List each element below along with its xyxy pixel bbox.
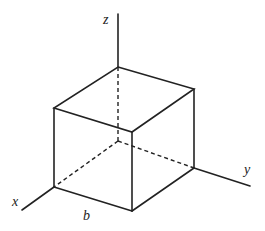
cube-edge-bottom-left <box>54 187 132 211</box>
cube-diagram: z y x b <box>0 0 265 231</box>
cube-edge-bottom-right <box>132 168 194 211</box>
x-axis-label: x <box>11 194 19 209</box>
cube-top-face <box>54 67 194 132</box>
hidden-edge-y <box>118 141 194 168</box>
hidden-edge-x <box>54 141 118 187</box>
z-axis-label: z <box>102 12 109 27</box>
y-axis <box>194 168 250 186</box>
edge-length-label: b <box>83 208 90 223</box>
y-axis-label: y <box>242 162 251 177</box>
x-axis <box>22 187 54 210</box>
